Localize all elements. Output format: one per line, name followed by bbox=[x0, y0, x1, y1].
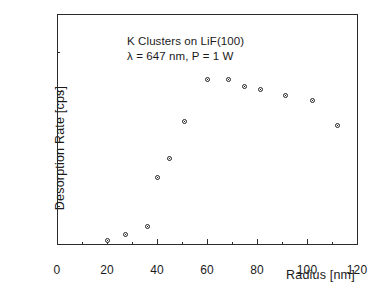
x-tick-label: 60 bbox=[187, 263, 227, 277]
x-tick-label: 100 bbox=[287, 263, 327, 277]
data-point-marker bbox=[310, 98, 315, 103]
chart-figure: Desorption Rate [cps] Radius [nm] 010020… bbox=[0, 0, 376, 296]
data-point-marker bbox=[182, 119, 187, 124]
data-point-marker bbox=[105, 238, 110, 243]
data-point-marker bbox=[167, 156, 172, 161]
x-tick-label: 80 bbox=[237, 263, 277, 277]
x-tick-label: 40 bbox=[137, 263, 177, 277]
plot-frame: 0100200300 020406080100120 K Clusters on… bbox=[57, 14, 358, 245]
data-points-layer bbox=[57, 14, 358, 245]
x-tick-label: 0 bbox=[37, 263, 77, 277]
data-point-marker bbox=[155, 175, 160, 180]
data-point-marker bbox=[335, 123, 340, 128]
data-point-marker bbox=[205, 77, 210, 82]
data-point-marker bbox=[258, 87, 263, 92]
data-point-marker bbox=[123, 232, 128, 237]
data-point-marker bbox=[226, 77, 231, 82]
data-point-marker bbox=[145, 224, 150, 229]
x-tick-label: 120 bbox=[337, 263, 376, 277]
x-tick-label: 20 bbox=[87, 263, 127, 277]
data-point-marker bbox=[283, 93, 288, 98]
data-point-marker bbox=[242, 84, 247, 89]
